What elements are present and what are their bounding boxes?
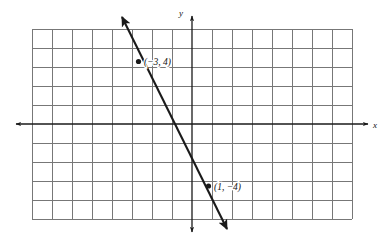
coordinate-plane-svg: y x (−3, 4) (1, −4) bbox=[0, 0, 385, 243]
y-axis-label: y bbox=[178, 8, 183, 18]
point-label-b: (1, −4) bbox=[214, 182, 241, 193]
data-point-marker-a bbox=[136, 59, 141, 64]
data-point-marker-b bbox=[206, 183, 211, 188]
graph-figure: y x (−3, 4) (1, −4) bbox=[0, 0, 385, 243]
point-label-a: (−3, 4) bbox=[144, 57, 171, 68]
x-axis-label: x bbox=[372, 120, 377, 130]
